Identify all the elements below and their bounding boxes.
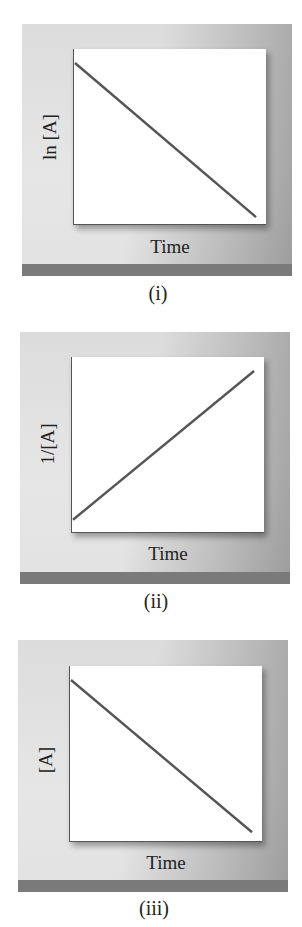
chart-panel-3: [A] Time [18, 640, 288, 892]
chart-caption-2: (ii) [144, 590, 168, 613]
x-axis-label-1: Time [150, 236, 189, 258]
chart-caption-1: (i) [149, 282, 168, 305]
line-series-2 [72, 357, 264, 532]
line-series-3 [70, 666, 262, 841]
chart-panel-2: 1/[A] Time [20, 332, 290, 584]
chart-caption-3: (iii) [139, 897, 169, 920]
y-axis-label-1: ln [A] [39, 114, 61, 160]
x-axis-label-3: Time [146, 852, 185, 874]
panel-bottom-bar-1 [22, 264, 292, 276]
y-axis-label-3: [A] [35, 747, 57, 773]
panel-bottom-bar-2 [20, 572, 290, 584]
x-axis-label-2: Time [148, 543, 187, 565]
plot-area-3 [69, 666, 262, 842]
plot-area-1 [73, 49, 266, 225]
chart-panel-1: ln [A] Time [22, 24, 292, 276]
line-series-1 [74, 49, 266, 224]
plot-area-2 [71, 357, 264, 533]
y-axis-label-2: 1/[A] [37, 423, 59, 464]
panel-bottom-bar-3 [18, 880, 288, 892]
